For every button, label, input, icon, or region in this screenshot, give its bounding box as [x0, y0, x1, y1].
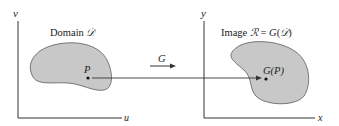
image-label: Image ℛ = G(𝒟) — [221, 27, 292, 39]
y-axis-label: y — [200, 7, 206, 19]
mapping-arrow-head-icon — [170, 64, 176, 69]
u-axis-label: u — [124, 112, 129, 123]
mapping-diagram: v u Domain 𝒟 P G y x Image ℛ = G(𝒟) G(P) — [0, 0, 339, 126]
x-axis-label: x — [317, 112, 323, 123]
point-p — [86, 76, 89, 79]
point-gp — [264, 77, 267, 80]
domain-region — [30, 43, 111, 91]
point-gp-label: G(P) — [263, 65, 284, 77]
mapping-g-label: G — [158, 53, 166, 64]
domain-label: Domain 𝒟 — [50, 27, 97, 38]
v-axis-label: v — [13, 7, 18, 19]
point-p-label: P — [83, 64, 91, 75]
